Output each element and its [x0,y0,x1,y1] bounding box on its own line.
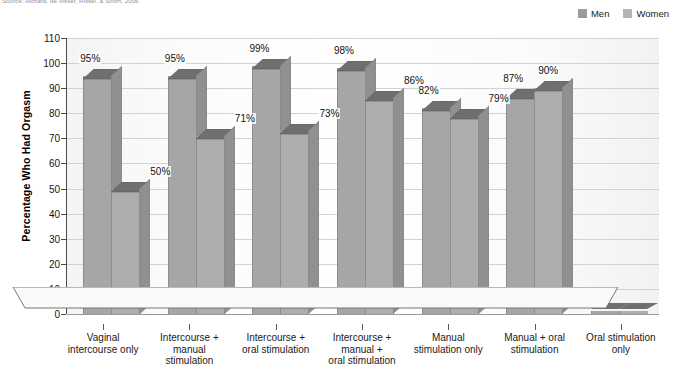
bar-women-6[interactable] [619,311,647,314]
value-label-men-3: 98% [333,45,355,56]
bar-side-face [478,106,489,314]
gridline-110 [67,38,659,39]
bar-men-2[interactable] [252,66,280,314]
bar-top-face [280,121,308,131]
x-category-label-4: Manualstimulation only [398,332,498,355]
y-tick-label-70: 70 [49,133,60,144]
bar-men-3[interactable] [337,68,365,314]
y-tick-label-110: 110 [44,33,60,44]
legend-item-women: Women [623,8,669,19]
bar-men-1[interactable] [168,76,196,314]
value-label-men-5: 87% [502,73,524,84]
x-tick-4 [448,324,449,330]
y-tick-label-80: 80 [49,108,60,119]
value-label-women-2: 73% [318,108,340,119]
y-tick-mark-60 [61,163,66,164]
x-category-label-0: Vaginalintercourse only [53,332,153,355]
x-category-line: intercourse only [53,344,153,356]
y-tick-mark-0 [61,314,66,315]
legend-swatch-men [578,9,587,18]
x-category-line: manual + [312,344,412,356]
chart-legend: Men Women [578,8,669,19]
value-label-men-2: 99% [248,43,270,54]
source-citation: Source: Richard, de Visser, Rissel, & Sm… [2,0,139,5]
x-category-line: Manual [398,332,498,344]
x-category-label-5: Manual + oralstimulation [485,332,585,355]
bar-front-face [534,88,563,314]
bar-side-face [393,88,404,314]
value-label-men-4: 82% [418,85,440,96]
x-category-line: oral stimulation [312,355,412,367]
bar-top-face [422,98,450,108]
y-tick-mark-50 [61,189,66,190]
y-tick-label-90: 90 [49,83,60,94]
legend-swatch-women [623,9,632,18]
x-category-line: oral stimulation [226,344,326,356]
value-label-women-1: 71% [234,113,256,124]
x-category-line: manual [139,344,239,356]
x-category-label-3: Intercourse +manual +oral stimulation [312,332,412,367]
x-axis-labels: Vaginalintercourse onlyIntercourse +manu… [54,332,679,373]
bar-top-face [534,78,562,88]
bar-front-face [83,76,112,314]
x-category-line: stimulation [139,355,239,367]
bar-top-face [252,56,280,66]
x-category-line: Vaginal [53,332,153,344]
bar-women-4[interactable] [450,116,478,314]
bar-front-face [168,76,197,314]
y-tick-mark-70 [61,138,66,139]
value-label-men-1: 95% [164,53,186,64]
x-category-label-6: Oral stimulationonly [571,332,671,355]
gridline-0 [67,314,659,315]
legend-label-women: Women [636,8,669,19]
x-category-label-1: Intercourse +manualstimulation [139,332,239,367]
y-tick-mark-110 [61,38,66,39]
bar-front-face [422,108,451,314]
y-tick-mark-90 [61,88,66,89]
bar-top-face [365,88,393,98]
bar-top-face [111,179,139,189]
bar-men-5[interactable] [506,96,534,314]
bar-men-6[interactable] [591,311,619,314]
value-label-women-5: 90% [537,65,559,76]
bar-front-face [506,96,535,314]
bar-side-face [308,121,319,314]
x-tick-5 [535,324,536,330]
y-tick-mark-20 [61,264,66,265]
y-tick-label-0: 0 [54,309,60,320]
x-tick-1 [189,324,190,330]
bar-top-face [450,106,478,116]
bar-men-0[interactable] [83,76,111,314]
y-tick-mark-40 [61,214,66,215]
value-label-women-0: 50% [149,166,171,177]
value-label-women-4: 79% [488,93,510,104]
x-tick-3 [362,324,363,330]
bar-side-face [224,126,235,314]
bar-women-5[interactable] [534,88,562,314]
bar-front-face [337,68,366,314]
x-category-line: Manual + oral [485,332,585,344]
y-tick-label-50: 50 [49,183,60,194]
x-tick-0 [103,324,104,330]
bar-front-face [252,66,281,314]
bar-front-face [450,116,479,314]
chart-floor-3d [12,287,618,309]
y-axis-line [66,38,67,314]
bar-side-face [562,78,573,314]
bar-top-face [337,58,365,68]
x-category-line: Intercourse + [312,332,412,344]
y-tick-label-100: 100 [43,58,60,69]
y-tick-mark-100 [61,63,66,64]
bar-men-4[interactable] [422,108,450,314]
bar-women-3[interactable] [365,98,393,314]
plot-canvas: 0102030405060708090100110 95%50%95%71%99… [67,38,659,314]
y-tick-mark-30 [61,239,66,240]
legend-label-men: Men [591,8,609,19]
chart-plot-area: 0102030405060708090100110 95%50%95%71%99… [54,26,670,314]
floor-polygon [12,287,618,309]
x-tick-6 [621,324,622,330]
bar-zero-sliver [619,296,658,314]
y-tick-label-60: 60 [49,158,60,169]
legend-item-men: Men [578,8,609,19]
y-tick-mark-80 [61,113,66,114]
